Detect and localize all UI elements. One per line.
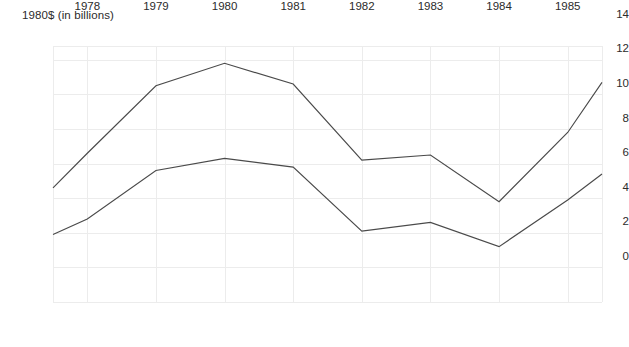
y-tick-label: 8: [623, 112, 629, 124]
series-line-lower: [53, 158, 602, 246]
series-lines: [53, 46, 602, 302]
plot-area: [53, 46, 602, 302]
y-tick-label: 10: [616, 77, 629, 89]
y-tick-label: 4: [623, 181, 629, 193]
y-tick-label: 2: [623, 215, 629, 227]
x-tick-label: 1985: [555, 0, 581, 12]
x-tick-label: 1982: [349, 0, 375, 12]
x-tick-label: 1980: [212, 0, 238, 12]
x-tick-label: 1983: [418, 0, 444, 12]
x-tick-label: 1981: [280, 0, 306, 12]
series-line-upper: [53, 63, 602, 201]
y-tick-label: 14: [616, 8, 629, 20]
x-tick-label: 1979: [143, 0, 169, 12]
line-chart: 1980$ (in billions) 14121086420 19781979…: [0, 0, 629, 347]
y-axis-title: 1980$ (in billions): [22, 9, 114, 21]
y-tick-label: 0: [623, 250, 629, 262]
y-tick-label: 6: [623, 146, 629, 158]
x-tick-label: 1984: [486, 0, 512, 12]
y-tick-label: 12: [616, 42, 629, 54]
